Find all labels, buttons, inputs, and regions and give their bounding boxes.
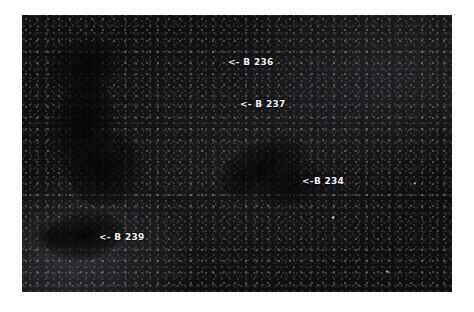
astronomy-photograph: <- B 236 <- B 237 <-B 234 <- B 239	[22, 15, 452, 292]
annotation-label-b239: <- B 239	[99, 232, 145, 242]
annotation-label-b236: <- B 236	[228, 57, 274, 67]
dark-nebula-b239-extension	[30, 219, 74, 253]
annotation-label-b237: <- B 237	[240, 99, 286, 109]
annotation-label-b234: <-B 234	[302, 176, 344, 186]
